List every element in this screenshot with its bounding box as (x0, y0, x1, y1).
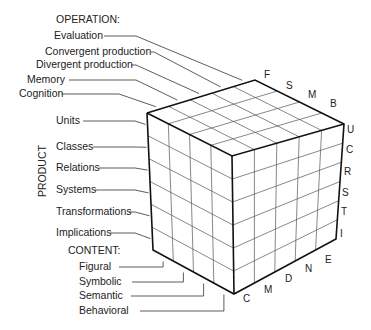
product-letter-r: R (344, 166, 351, 177)
product-letter-c: C (346, 144, 353, 155)
product-units: Units (56, 114, 80, 126)
operation-letter-s: S (286, 80, 293, 91)
content-symbolic: Symbolic (79, 275, 122, 287)
product-letter-u: U (347, 124, 354, 135)
product-relations: Relations (56, 161, 100, 173)
content-letter-e: E (325, 254, 332, 265)
product-header: PRODUCT (36, 144, 48, 197)
product-classes: Classes (56, 140, 93, 152)
content-header: CONTENT: (68, 244, 121, 256)
content-letter-c: C (243, 293, 250, 304)
operation-letter-m: M (308, 89, 316, 100)
structure-of-intellect-cube: OPERATION: Evaluation Convergent product… (0, 0, 371, 330)
content-figural: Figural (79, 260, 111, 272)
operation-divergent-production: Divergent production (36, 58, 133, 70)
content-letter-m: M (264, 284, 272, 295)
operation-cognition: Cognition (19, 87, 64, 99)
product-letter-s: S (342, 187, 349, 198)
product-implications: Implications (56, 226, 111, 238)
product-transformations: Transformations (56, 205, 131, 217)
operation-memory: Memory (27, 73, 66, 85)
cube-grid (147, 80, 344, 294)
operation-header: OPERATION: (56, 13, 120, 25)
operation-letter-b: B (330, 98, 337, 109)
content-letter-d: D (285, 273, 292, 284)
product-letter-i: I (340, 228, 343, 239)
product-systems: Systems (56, 183, 96, 195)
operation-evaluation: Evaluation (54, 29, 103, 41)
operation-convergent-production: Convergent production (45, 45, 151, 57)
content-behavioral: Behavioral (79, 304, 129, 316)
content-semantic: Semantic (79, 289, 123, 301)
product-letter-t: T (341, 206, 347, 217)
operation-letter-f: F (264, 69, 270, 80)
content-letter-n: N (305, 263, 312, 274)
